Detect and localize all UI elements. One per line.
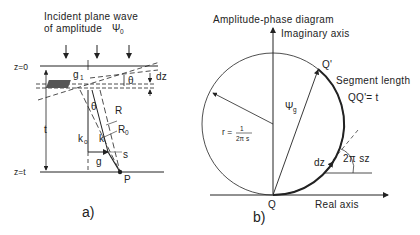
dz-label: dz — [156, 71, 167, 82]
panel-a-label: a) — [82, 204, 94, 220]
Q-label: Q — [268, 199, 276, 210]
point-P — [118, 170, 122, 174]
segment-length-label: Segment length — [336, 75, 410, 86]
segment-QQprime — [273, 69, 344, 195]
r-numerator: 1 — [240, 125, 244, 132]
dz-arrow-b — [325, 162, 333, 173]
imaginary-axis-label: Imaginary axis — [281, 28, 350, 39]
radius-line — [213, 93, 273, 124]
g-label: g — [96, 156, 102, 167]
angle-label: 2π sz — [343, 153, 370, 164]
P-label: P — [124, 174, 131, 185]
k-label: k — [99, 133, 105, 144]
amplitude-phase-title: Amplitude-phase diagram — [213, 14, 334, 25]
real-axis-label: Real axis — [315, 199, 359, 210]
R-label: R — [115, 105, 123, 116]
g1-subscript: 1 — [80, 74, 84, 81]
psi-g-vector — [273, 70, 318, 195]
zt-label: z=t — [14, 167, 26, 177]
R0-subscript: 0 — [125, 129, 129, 136]
theta-label: θ — [91, 101, 97, 112]
r-equals: r = — [222, 127, 232, 137]
diagram-canvas: Incident plane wave of amplitude Ψ 0 z=0… — [0, 0, 420, 235]
k0-subscript: o — [84, 138, 88, 145]
panel-a: Incident plane wave of amplitude Ψ 0 z=0… — [14, 11, 167, 220]
incident-wave-title-line1: Incident plane wave — [44, 11, 138, 22]
theta-top-label: θ — [128, 75, 134, 86]
g1-label: g — [73, 69, 79, 80]
psi-g-subscript: g — [293, 106, 297, 114]
segment-equation: QQ'= t — [348, 92, 379, 103]
Qprime-label: Q' — [322, 59, 332, 70]
r-denominator: 2π s — [236, 135, 250, 142]
dz-label-b: dz — [314, 157, 325, 168]
s-to-P-line — [108, 152, 120, 172]
s-label: s — [123, 149, 128, 160]
panel-b: Amplitude-phase diagram Imaginary axis R… — [202, 14, 410, 225]
t-label: t — [44, 124, 47, 135]
incident-wave-title-line2: of amplitude — [44, 23, 102, 34]
crystal-element — [46, 80, 71, 88]
panel-b-label: b) — [253, 209, 265, 225]
z0-label: z=0 — [14, 62, 28, 72]
psi0-subscript: 0 — [120, 28, 124, 35]
